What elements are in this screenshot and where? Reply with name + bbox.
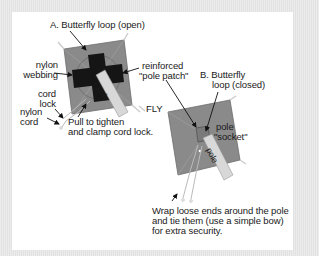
fly-label: FLY (146, 104, 162, 114)
pull-instruction-2: and clamp cord lock. (68, 127, 153, 137)
panel-b-title-2: loop (closed) (212, 80, 265, 90)
wrap-note-3: for extra security. (152, 226, 222, 236)
nylon-webbing-label-2: webbing (10, 70, 58, 80)
reinforced-label-2: "pole patch" (139, 71, 188, 81)
fly-patch-a (58, 33, 140, 129)
panel-a-title: A. Butterfly loop (open) (50, 20, 145, 30)
nylon-cord-label-2: cord (20, 117, 38, 127)
pole-socket-label-2: "socket" (214, 132, 247, 142)
